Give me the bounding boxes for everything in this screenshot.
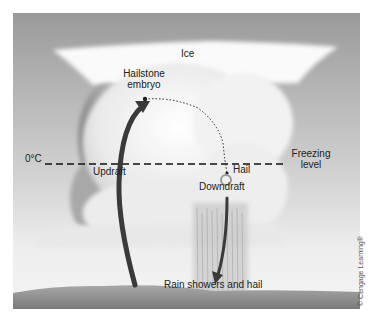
hailstone-embryo-dot [143,97,147,101]
label-ice: Ice [181,48,194,59]
label-zero-celsius: 0°C [25,153,42,164]
cloud-body [70,63,293,248]
diagram-frame: Ice Hailstone embryo 0°C Freezing level … [13,13,360,309]
copyright-notice: © Cengage Learning® [357,236,364,306]
label-updraft: Updraft [93,166,126,177]
label-freezing-level-line2: level [286,159,336,170]
label-downdraft: Downdraft [199,181,245,192]
label-hailstone-embryo-line2: embryo [116,79,172,90]
label-rain-showers-and-hail: Rain showers and hail [164,279,262,290]
label-freezing-level-line1: Freezing [286,148,336,159]
label-freezing-level: Freezing level [286,148,336,170]
label-hailstone-embryo-line1: Hailstone [116,68,172,79]
label-hail: Hail [233,164,250,175]
label-hailstone-embryo: Hailstone embryo [116,68,172,90]
